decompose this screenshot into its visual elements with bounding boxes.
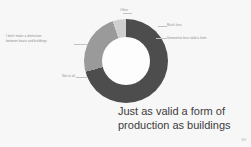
page-number: 69 [242,137,246,142]
leader-line-not-at-all [76,77,88,78]
leader-line-other [123,13,132,14]
slice-label-other: Other [104,8,144,12]
slide-caption: Just as valid a form of production as bu… [118,104,236,132]
caption-line-1: Just as valid a form of [118,104,236,118]
slide-canvas: Other Much less Somewhat less valid a fo… [0,0,251,147]
slice-label-somewhat-less: Somewhat less valid a form [167,36,213,40]
slice-label-no-distinction: I don't make a distinction between boats… [6,34,78,43]
leader-line-much-less [158,26,167,27]
slice-label-not-at-all: Not at all [45,74,75,78]
donut-center-hole [102,37,150,85]
donut-chart [84,19,168,103]
slice-label-much-less: Much less [167,23,209,27]
leader-line-somewhat-less [156,38,167,39]
caption-line-2: production as buildings [118,118,236,132]
leader-line-no-distinction [74,44,88,45]
